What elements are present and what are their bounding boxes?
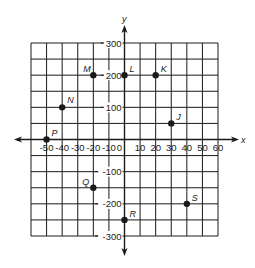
x-tick-label: 40	[182, 142, 193, 153]
point-label-q: Q	[82, 177, 89, 187]
x-tick-label: 60	[213, 142, 224, 153]
x-tick-label: 10	[135, 142, 146, 153]
point-label-k: K	[161, 64, 168, 74]
y-tick-label: 100	[106, 102, 122, 113]
x-tick-label: 30	[166, 142, 177, 153]
x-tick-label: -50	[40, 142, 54, 153]
y-tick-label: 300	[106, 38, 122, 49]
point-r	[121, 217, 127, 223]
point-label-m: M	[83, 64, 91, 74]
point-label-r: R	[130, 209, 137, 219]
point-m	[90, 72, 96, 78]
point-label-l: L	[130, 64, 135, 74]
point-q	[90, 185, 96, 191]
point-p	[43, 136, 49, 142]
point-l	[121, 72, 127, 78]
x-tick-label: 50	[197, 142, 208, 153]
coordinate-plane: xy -50-40-30-20-100102030405060300200100…	[0, 0, 255, 268]
y-tick-label: 200	[106, 70, 122, 81]
x-tick-label: -20	[86, 142, 100, 153]
point-label-j: J	[175, 112, 181, 122]
point-j	[168, 120, 174, 126]
x-axis-label: x	[240, 135, 246, 145]
y-tick-label: -300	[102, 231, 121, 242]
x-tick-label: 20	[150, 142, 161, 153]
x-tick-label: 0	[117, 142, 122, 153]
point-k	[152, 72, 158, 78]
point-s	[184, 201, 190, 207]
y-tick-label: -200	[102, 198, 121, 209]
point-label-p: P	[52, 128, 58, 138]
y-tick-label: -100	[102, 166, 121, 177]
point-label-n: N	[67, 95, 74, 105]
point-label-s: S	[192, 193, 198, 203]
y-axis-label: y	[121, 14, 127, 24]
coordinate-plane-svg: xy -50-40-30-20-100102030405060300200100…	[0, 0, 255, 268]
point-n	[59, 104, 65, 110]
x-tick-label: -10	[102, 142, 116, 153]
x-tick-label: -30	[71, 142, 85, 153]
x-tick-label: -40	[55, 142, 69, 153]
